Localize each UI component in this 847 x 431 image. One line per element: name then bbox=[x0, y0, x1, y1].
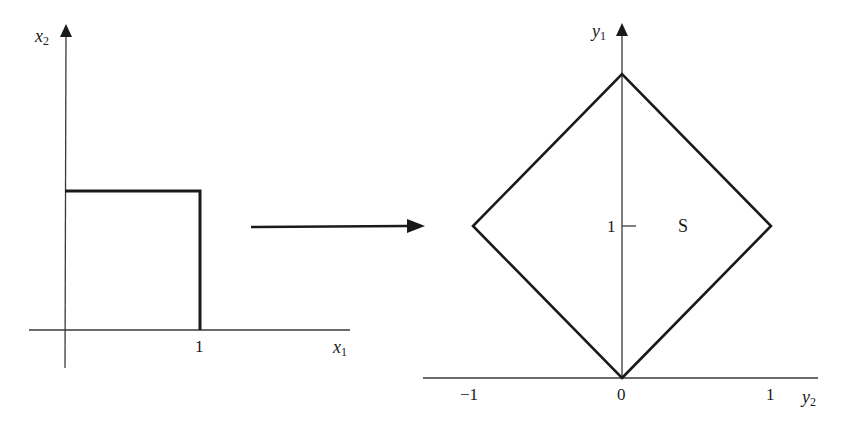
x2-axis-arrow-icon bbox=[60, 24, 72, 37]
arrow-head-icon bbox=[407, 219, 425, 233]
y1-axis-arrow-icon bbox=[616, 23, 628, 36]
unit-square bbox=[65, 191, 200, 330]
y1-axis-label-base: y bbox=[592, 21, 600, 41]
x1-tick-label-1: 1 bbox=[195, 338, 204, 355]
mapping-arrow bbox=[251, 219, 425, 233]
x1-axis-label-base: x bbox=[333, 337, 341, 357]
region-s-label: S bbox=[678, 217, 688, 235]
y2-tick-label-minus-1: −1 bbox=[460, 386, 478, 403]
y2-tick-label-1: 1 bbox=[766, 386, 775, 403]
y1-tick-label-1: 1 bbox=[607, 218, 616, 235]
y2-axis-label: y2 bbox=[802, 388, 816, 408]
diagram-canvas bbox=[0, 0, 847, 431]
x2-axis-label-base: x bbox=[35, 26, 43, 46]
x2-axis-label-subscript: 2 bbox=[43, 34, 49, 48]
y1-axis-label: y1 bbox=[592, 22, 606, 42]
x2-axis-label: x2 bbox=[35, 27, 49, 47]
x1-axis-label-subscript: 1 bbox=[341, 345, 347, 359]
y1-axis-label-subscript: 1 bbox=[600, 29, 606, 43]
y2-axis-label-subscript: 2 bbox=[810, 395, 816, 409]
x2-axis bbox=[65, 36, 66, 368]
x1-axis-label: x1 bbox=[333, 338, 347, 358]
left-panel bbox=[29, 24, 350, 368]
y2-tick-label-0: 0 bbox=[617, 386, 626, 403]
right-panel bbox=[423, 23, 818, 378]
y2-axis-label-base: y bbox=[802, 387, 810, 407]
